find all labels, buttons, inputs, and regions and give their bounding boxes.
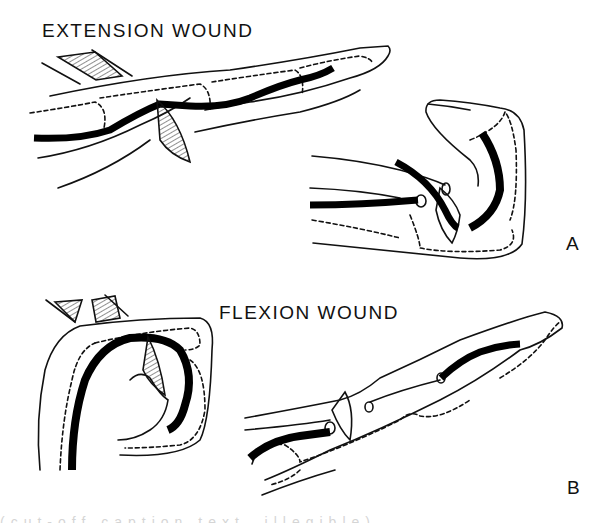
blade-icon-b	[143, 337, 165, 395]
extended-finger-a	[30, 46, 390, 188]
tendon-extended-a	[34, 68, 333, 138]
tendon-proximal-a	[310, 200, 418, 205]
wound-illustration	[0, 0, 611, 523]
extended-finger-b	[245, 312, 562, 495]
tendon-distal-a	[470, 133, 500, 228]
caption-fragment: (cut-off caption text, illegible)	[0, 512, 611, 523]
tendon-flexed-b	[72, 338, 189, 471]
tendon-proximal-b	[250, 432, 330, 458]
